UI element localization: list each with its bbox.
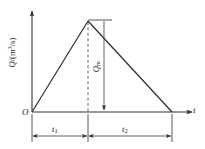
y-axis-symbol: Q [7,61,17,67]
x-axis-label: t [193,106,196,115]
hydrograph-figure: Q/(m3/s) Qm O t t1 t2 [0,0,205,149]
origin-label: O [22,108,29,117]
y-axis-unit-numerator: m [7,49,17,56]
t1-subscript: 1 [54,127,57,134]
y-axis-separator: /( [7,56,17,61]
peak-discharge-subscript: m [94,61,101,66]
t2-label: t2 [122,125,128,134]
chart-canvas [0,0,205,149]
y-axis-unit-denominator: /s) [7,38,17,47]
y-axis-unit-exponent: 3 [6,46,13,49]
t2-subscript: 2 [124,127,127,134]
rising-limb [32,21,88,112]
y-axis-label: Q/(m3/s) [7,22,16,84]
t1-label: t1 [52,125,58,134]
peak-discharge-symbol: Q [91,66,101,72]
peak-discharge-label: Qm [92,54,101,80]
